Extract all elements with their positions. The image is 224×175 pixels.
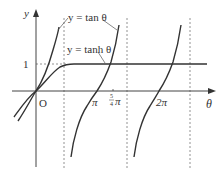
y-axis-arrow	[33, 9, 39, 17]
pi-label: π	[92, 96, 98, 108]
two-pi-label: 2π	[156, 96, 168, 108]
five-quarter-den: 4	[110, 101, 113, 107]
tan-tanh-diagram: y θ O 1 π 5 4 π 2π y = tan θ y = tanh θ	[0, 0, 224, 175]
tanh-label: y = tanh θ	[67, 43, 111, 55]
theta-axis-label: θ	[206, 97, 212, 111]
y-axis-label: y	[23, 7, 29, 19]
tan-label-leader	[58, 18, 68, 30]
y-one-label: 1	[23, 58, 29, 70]
origin-label: O	[39, 97, 47, 109]
five-quarter-pi-sym: π	[115, 95, 121, 107]
tan-label: y = tan θ	[68, 11, 107, 23]
asymptotes	[64, 18, 190, 168]
five-quarter-num: 5	[110, 93, 113, 99]
theta-axis-arrow	[208, 88, 216, 94]
